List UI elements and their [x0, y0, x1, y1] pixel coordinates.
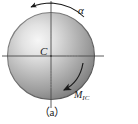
inertia-couple-label: MIC: [74, 90, 89, 102]
center-point: [50, 55, 52, 57]
angular-acceleration-label: α: [78, 5, 84, 16]
center-label: C: [40, 46, 47, 57]
figure-caption: （a）: [0, 107, 104, 118]
mechanics-figure: α C MIC （a）: [0, 0, 138, 124]
inertia-couple-subscript: IC: [82, 94, 89, 102]
figure-canvas: [0, 0, 138, 124]
